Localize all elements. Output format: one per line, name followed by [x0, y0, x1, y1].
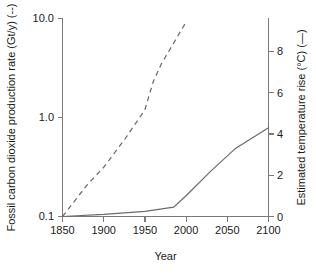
x-tick-label-2000: 2000 — [174, 224, 198, 236]
series-fossil-co2-production-dashed — [63, 22, 187, 217]
right-axis-title: Estimated temperature rise (°C) (—) — [295, 29, 307, 205]
left-tick-label-0-1: 0.1 — [39, 210, 54, 222]
left-axis-ticks — [58, 19, 63, 217]
x-axis-tick-labels: 1850 1900 1950 2000 2050 2100 — [50, 224, 280, 236]
right-tick-label-2: 2 — [277, 169, 283, 181]
x-tick-label-1900: 1900 — [91, 224, 115, 236]
series-temperature-rise-solid — [63, 128, 269, 217]
left-axis-tick-labels: 10.0 1.0 0.1 — [33, 12, 54, 222]
right-tick-label-0: 0 — [277, 211, 283, 223]
chart-plot-area: 1850 1900 1950 2000 2050 2100 10.0 1.0 0… — [0, 0, 316, 276]
x-tick-label-1850: 1850 — [50, 224, 74, 236]
right-tick-label-6: 6 — [277, 87, 283, 99]
chart-figure: 1850 1900 1950 2000 2050 2100 10.0 1.0 0… — [0, 0, 316, 276]
right-tick-label-8: 8 — [277, 45, 283, 57]
left-tick-label-10: 10.0 — [33, 12, 54, 24]
x-tick-label-2050: 2050 — [215, 224, 239, 236]
chart-axes — [63, 18, 269, 217]
x-tick-label-1950: 1950 — [133, 224, 157, 236]
right-axis-ticks — [269, 51, 274, 216]
chart-series-group — [63, 22, 269, 217]
right-axis-tick-labels: 0 2 4 6 8 — [277, 45, 283, 222]
x-axis-title: Year — [154, 250, 177, 262]
right-tick-label-4: 4 — [277, 128, 283, 140]
x-axis-ticks — [63, 217, 269, 222]
left-tick-label-1: 1.0 — [39, 111, 54, 123]
x-tick-label-2100: 2100 — [256, 224, 280, 236]
left-axis-title: Fossil carbon dioxide production rate (G… — [5, 3, 17, 231]
